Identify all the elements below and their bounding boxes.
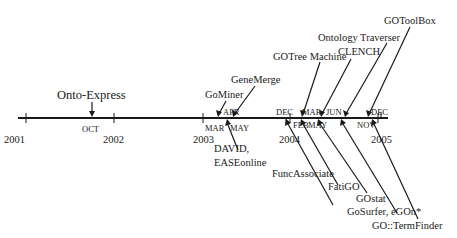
year-label: 2001 (4, 134, 25, 145)
month-label: DEC (276, 107, 293, 117)
tool-label-fatigo: FatiGO (328, 181, 360, 192)
tool-label-ontology-traverser: Ontology Traverser (318, 32, 400, 43)
tool-label-gostat: GOstat (356, 193, 386, 204)
tool-label-go-termfinder: GO::TermFinder (372, 220, 443, 231)
tool-label-gosurfer-egon: GoSurfer, eGOn* (347, 206, 421, 217)
tool-label-easeonline: EASEonline (214, 157, 267, 168)
tool-labels-above: Onto-Express GoMiner GeneMerge GOTree Ma… (57, 15, 437, 102)
year-label: 2002 (103, 134, 124, 145)
tool-label-onto-express: Onto-Express (57, 88, 126, 102)
tool-label-gotoolbox: GOToolBox (384, 15, 437, 26)
tool-labels-below: DAVID, EASEonline FuncAssociate FatiGO G… (214, 143, 443, 231)
tool-label-david: DAVID, (214, 143, 249, 154)
tool-release-timeline: 2001 2002 2003 2004 2005 OCT MAR APR MAY… (0, 0, 457, 238)
year-label: 2003 (193, 134, 214, 145)
tool-label-gotree-machine: GOTree Machine (273, 51, 347, 62)
tool-label-funcassociate: FuncAssociate (272, 168, 334, 179)
tool-label-genemerge: GeneMerge (231, 74, 281, 85)
month-label: APR (223, 107, 240, 117)
month-label: MAY (230, 123, 249, 133)
tool-label-gominer: GoMiner (205, 89, 244, 100)
month-label: JUN (326, 107, 342, 117)
year-label: 2004 (279, 134, 301, 145)
tool-label-clench: CLENCH (338, 46, 380, 57)
month-label: OCT (82, 124, 100, 134)
month-label: DEC (371, 107, 388, 117)
month-label: MAR (205, 123, 225, 133)
